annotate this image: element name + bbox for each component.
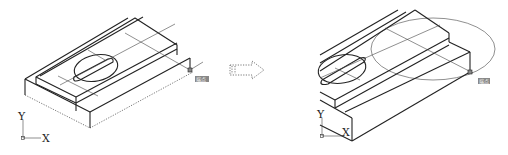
- cad-illustration: 端点 Y X: [0, 0, 508, 155]
- base-dotted-edges: [25, 72, 193, 128]
- base-left-top: [320, 100, 352, 118]
- left-model: 端点 Y X: [17, 17, 209, 145]
- grip-point[interactable]: [468, 70, 472, 74]
- ucs-x-label: X: [342, 126, 350, 139]
- rail-line: [320, 10, 398, 55]
- base-top-back: [25, 18, 128, 79]
- construction-line: [125, 33, 190, 70]
- slot-inner: [321, 58, 365, 85]
- ucs-y-label: Y: [316, 108, 325, 121]
- base-bottom-front: [352, 72, 470, 141]
- step-left-top: [320, 92, 335, 100]
- step-back-edge: [415, 10, 449, 33]
- right-model: 端点 Y X: [316, 10, 495, 141]
- rail-line: [320, 10, 415, 71]
- ucs-x-label: X: [42, 132, 50, 145]
- step-top-edge: [76, 43, 177, 97]
- grip-tooltip-text: 端点: [196, 76, 206, 83]
- base-top-front: [25, 58, 190, 112]
- step-lower: [449, 42, 470, 52]
- step-outline: [36, 18, 177, 84]
- ucs-y-label: Y: [17, 110, 26, 123]
- construction-line: [335, 68, 360, 80]
- rail-line: [320, 12, 406, 63]
- grip-tooltip-text: 端点: [479, 78, 489, 85]
- step-top-front: [76, 49, 177, 103]
- grip-point[interactable]: [188, 68, 192, 72]
- transition-arrow-icon: [230, 61, 264, 79]
- construction-line: [58, 76, 98, 96]
